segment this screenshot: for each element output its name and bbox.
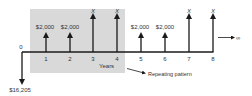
annotation-leader-line xyxy=(127,69,144,74)
cash-flow-period-8: X 8 xyxy=(210,8,216,62)
inflow-amount-label: $2,000 xyxy=(61,24,80,30)
repeating-pattern-label: Repeating pattern xyxy=(148,71,192,77)
infinity-symbol: ∞ xyxy=(236,35,240,41)
period-0-label: 0 xyxy=(19,44,23,50)
outflow-amount-label: $16,205 xyxy=(9,87,31,93)
inflow-amount-label: $2,000 xyxy=(36,24,55,30)
cash-flow-period-7: X 7 xyxy=(186,8,192,62)
period-label: 7 xyxy=(187,56,191,62)
cash-flow-period-5: $2,000 5 xyxy=(131,24,150,62)
cash-flow-canvas: 0 $16,205 $2,000 1 $2,000 2 X 3 X 4 xyxy=(0,0,252,96)
inflow-amount-label: $2,000 xyxy=(156,24,175,30)
period-label: 8 xyxy=(211,56,215,62)
period-label: 5 xyxy=(139,56,143,62)
axis-label-years: Years xyxy=(99,63,114,69)
inflow-amount-label: $2,000 xyxy=(131,24,150,30)
inflow-amount-label: X xyxy=(210,8,216,14)
cash-flow-diagram: 0 $16,205 $2,000 1 $2,000 2 X 3 X 4 xyxy=(0,0,252,96)
inflow-amount-label: X xyxy=(186,8,192,14)
period-label: 6 xyxy=(163,56,167,62)
cash-flow-period-6: $2,000 6 xyxy=(156,24,175,62)
